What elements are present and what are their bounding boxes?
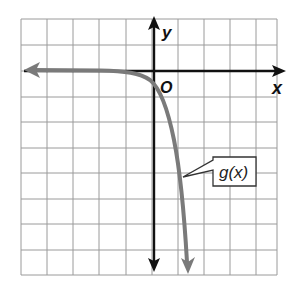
y-axis [148, 16, 160, 272]
function-callout: g(x) [183, 157, 256, 186]
x-axis-label: x [271, 78, 283, 98]
y-axis-label: y [161, 23, 173, 42]
grid [21, 19, 277, 275]
function-label: g(x) [219, 163, 248, 182]
origin-label: O [160, 79, 173, 96]
coordinate-graph: y x O g(x) [0, 0, 298, 283]
